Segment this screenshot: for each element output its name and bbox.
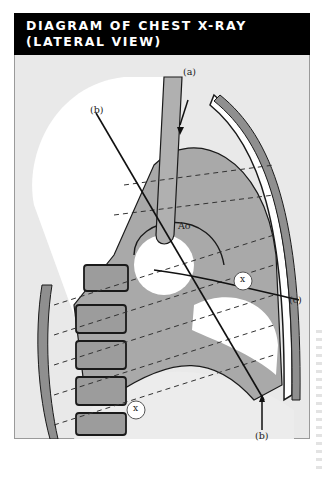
label-x-lower: x: [133, 403, 138, 413]
posterior-wall: [38, 285, 58, 439]
label-c: (c): [289, 294, 302, 305]
title-line-1: DIAGRAM OF CHEST X-RAY: [26, 18, 310, 34]
title-line-2: (LATERAL VIEW): [26, 34, 310, 50]
label-aorta: Ao: [178, 220, 191, 231]
diagram-title: DIAGRAM OF CHEST X-RAY (LATERAL VIEW): [14, 13, 310, 55]
label-x-upper: x: [240, 274, 245, 284]
label-b-bottom: (b): [255, 430, 269, 441]
label-b-top: (b): [90, 104, 104, 115]
chest-xray-lateral-illustration: [14, 55, 310, 439]
label-a: (a): [183, 66, 196, 77]
side-watermark: [316, 330, 322, 470]
